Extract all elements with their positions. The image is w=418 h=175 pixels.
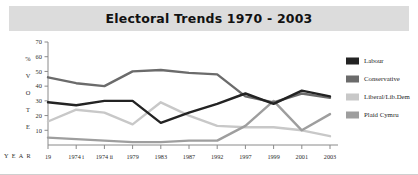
x-tick-label: 1983 <box>155 153 167 160</box>
legend-swatch <box>346 76 359 83</box>
series-line-plaid-cymru <box>48 101 330 142</box>
legend-item-liberal-lib-dem[interactable]: Liberal/Lib.Dem <box>346 93 411 101</box>
x-tick-label: 2001 <box>296 153 308 160</box>
legend-label: Conservative <box>364 75 400 82</box>
y-axis-title-char: E <box>26 123 30 130</box>
legend-item-labour[interactable]: Labour <box>346 57 384 65</box>
y-axis-title-char: T <box>26 106 30 113</box>
y-tick-label: 30 <box>36 97 42 104</box>
y-axis-title-char: O <box>26 89 31 96</box>
x-tick-label: 1999 <box>267 153 279 160</box>
x-tick-label: 1997 <box>239 153 251 160</box>
legend-item-conservative[interactable]: Conservative <box>346 75 400 83</box>
y-tick-label: 70 <box>36 38 42 45</box>
y-tick-label: 10 <box>36 127 42 134</box>
legend-item-plaid-cymru[interactable]: Plaid Cymru <box>346 111 399 119</box>
y-axis-title: %VOTE <box>25 55 31 130</box>
legend-swatch <box>346 58 359 65</box>
chart-series-lines <box>48 70 330 142</box>
x-axis-title: Y E A R <box>4 152 32 159</box>
x-axis-tick-labels: 191974 i1974 ii1979198319871992199719992… <box>45 153 336 160</box>
x-tick-label: 2003 <box>324 153 336 160</box>
legend-swatch <box>346 94 359 101</box>
y-tick-label: 40 <box>36 82 42 89</box>
page-title: Electoral Trends 1970 - 2003 <box>105 11 312 26</box>
x-tick-label: 1974 i <box>68 153 84 160</box>
line-chart: 10203040506070 %VOTE 191974 i1974 ii1979… <box>0 33 418 175</box>
x-tick-label: 19 <box>45 153 51 160</box>
y-axis-tick-labels: 10203040506070 <box>36 38 42 133</box>
x-tick-label: 1974 ii <box>96 153 114 160</box>
chart-figure: Electoral Trends 1970 - 2003 10203040506… <box>0 0 418 175</box>
x-tick-label: 1992 <box>211 153 223 160</box>
chart-title-bar: Electoral Trends 1970 - 2003 <box>9 6 409 31</box>
legend-label: Plaid Cymru <box>364 111 399 118</box>
legend-label: Labour <box>364 57 384 64</box>
series-line-liberal-lib-dem <box>48 102 330 136</box>
y-tick-label: 20 <box>36 112 42 119</box>
y-tick-label: 50 <box>36 68 42 75</box>
y-tick-label: 60 <box>36 53 42 60</box>
legend-label: Liberal/Lib.Dem <box>364 93 411 100</box>
y-axis-title-char: % <box>25 55 31 62</box>
legend-swatch <box>346 112 359 119</box>
plot-area: 10203040506070 %VOTE 191974 i1974 ii1979… <box>0 33 418 175</box>
series-line-labour <box>48 91 330 123</box>
y-axis-title-char: V <box>26 72 31 79</box>
chart-legend: LabourConservativeLiberal/Lib.DemPlaid C… <box>346 57 411 119</box>
x-tick-label: 1979 <box>126 153 138 160</box>
x-tick-label: 1987 <box>183 153 195 160</box>
